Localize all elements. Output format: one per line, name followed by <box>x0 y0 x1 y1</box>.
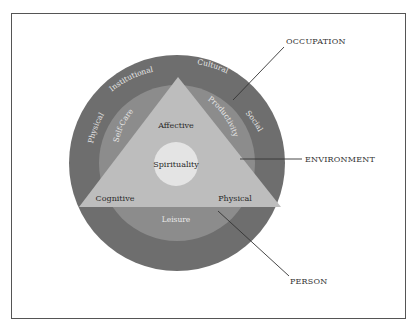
environment-label: ENVIRONMENT <box>305 155 375 164</box>
person-label: PERSON <box>290 277 328 286</box>
occupation-label: OCCUPATION <box>286 37 346 46</box>
core-label-spirituality: Spirituality <box>153 160 199 169</box>
occupation-leader-line <box>233 47 284 100</box>
triangle-label-cognitive: Cognitive <box>96 194 135 203</box>
ring-label-leisure: Leisure <box>162 215 191 224</box>
triangle-label-affective: Affective <box>157 121 194 130</box>
triangle-label-physical: Physical <box>218 194 252 203</box>
model-diagram: Physical Institutional Cultural Social S… <box>0 0 412 327</box>
